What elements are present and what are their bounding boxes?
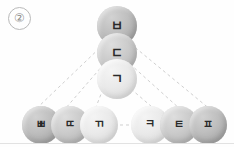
node-gg: ㄲ	[80, 106, 118, 144]
node-g: ㄱ	[97, 59, 137, 99]
node-g-label: ㄱ	[97, 59, 137, 99]
baseline-rule	[0, 143, 234, 144]
edge-d-t	[130, 64, 180, 109]
node-gg-label: ㄲ	[80, 106, 118, 144]
edge-b-p	[126, 40, 211, 110]
node-p: ㅍ	[189, 106, 227, 144]
node-p-label: ㅍ	[189, 106, 227, 144]
consonant-relationship-diagram: ② ㅂㄷㄱㅃㄸㄲㅋㅌㅍ	[0, 0, 234, 147]
